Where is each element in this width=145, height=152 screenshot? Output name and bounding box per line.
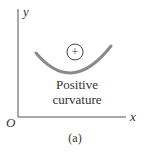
x-axis-label: x: [130, 109, 136, 125]
caption: (a): [60, 131, 90, 146]
y-axis-label: y: [23, 4, 29, 20]
origin-label: O: [6, 115, 15, 131]
positive-sign: +: [69, 44, 81, 60]
curve-label-line2: curvature: [42, 92, 112, 107]
diagram-canvas: [0, 0, 145, 152]
curve-label-line1: Positive: [42, 77, 112, 92]
curve-label: Positive curvature: [42, 77, 112, 107]
